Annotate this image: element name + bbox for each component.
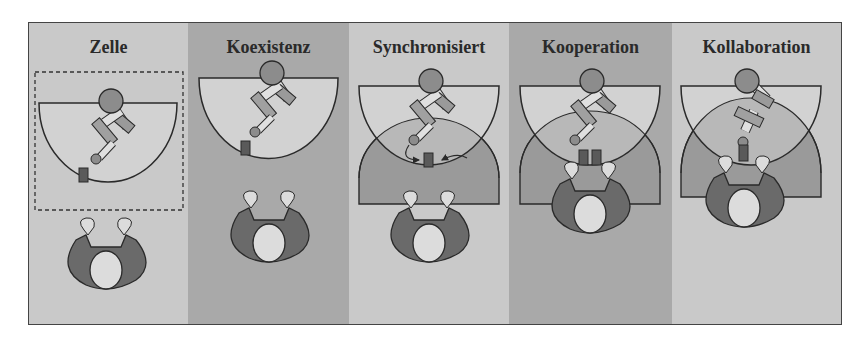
human-worker-icon	[68, 218, 146, 289]
column-koexistenz: Koexistenz	[188, 23, 349, 324]
workpiece-icon	[79, 168, 88, 182]
column-synchronisiert: Synchronisiert	[349, 23, 509, 324]
cropped-text-below	[30, 331, 820, 341]
zelle-scene	[29, 23, 188, 326]
column-zelle: Zelle	[29, 23, 188, 324]
synchronisiert-scene	[349, 23, 509, 326]
shared-workpiece-icon	[739, 145, 748, 161]
cropped-text-above	[30, 2, 820, 12]
workpiece-human-icon	[592, 150, 601, 165]
column-kooperation: Kooperation	[509, 23, 672, 324]
human-worker-icon	[231, 191, 309, 262]
kollaboration-scene	[672, 23, 841, 326]
koexistenz-scene	[188, 23, 349, 326]
kooperation-scene	[509, 23, 672, 326]
workpiece-icon	[424, 153, 433, 167]
workpiece-robot-icon	[579, 150, 588, 165]
column-kollaboration: Kollaboration	[672, 23, 841, 324]
workpiece-icon	[241, 141, 250, 155]
hrc-levels-figure: Zelle	[28, 22, 842, 325]
